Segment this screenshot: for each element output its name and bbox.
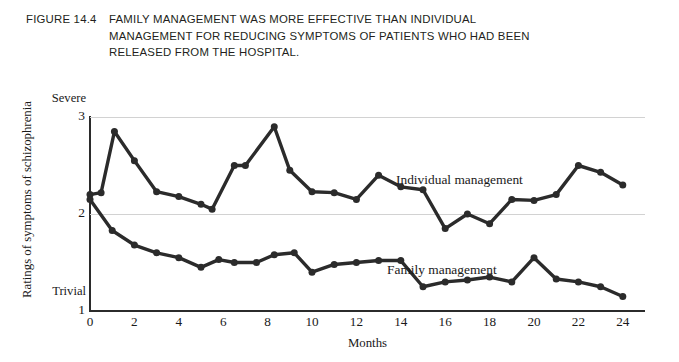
data-point xyxy=(253,259,260,266)
data-point xyxy=(215,256,222,263)
data-point xyxy=(353,259,360,266)
y-axis-tick-3: 3 xyxy=(45,108,85,124)
y-axis-tick-2: 2 xyxy=(45,205,85,221)
data-point xyxy=(198,264,205,271)
x-axis-tick-4: 4 xyxy=(164,314,194,330)
data-point xyxy=(331,261,338,268)
data-point xyxy=(375,257,382,264)
data-point xyxy=(575,278,582,285)
data-point xyxy=(271,123,278,130)
series-label-individual: Individual management xyxy=(396,172,523,188)
data-point xyxy=(131,157,138,164)
data-point xyxy=(375,172,382,179)
data-point xyxy=(109,227,116,234)
x-axis-tick-0: 0 xyxy=(75,314,105,330)
data-point xyxy=(353,196,360,203)
data-point xyxy=(198,201,205,208)
x-axis-tick-18: 18 xyxy=(475,314,505,330)
x-axis-tick-16: 16 xyxy=(430,314,460,330)
data-point xyxy=(111,128,118,135)
data-point xyxy=(309,188,316,195)
x-axis-tick-6: 6 xyxy=(208,314,238,330)
x-axis-tick-12: 12 xyxy=(341,314,371,330)
data-point xyxy=(231,259,238,266)
data-point xyxy=(619,293,626,300)
data-point xyxy=(442,225,449,232)
data-point xyxy=(508,278,515,285)
y-axis-anchor-trivial: Trivial xyxy=(20,284,86,299)
data-point xyxy=(131,242,138,249)
series-label-family: Family management xyxy=(387,262,497,278)
data-point xyxy=(153,249,160,256)
data-point xyxy=(531,254,538,261)
data-point xyxy=(271,251,278,258)
data-point xyxy=(442,278,449,285)
data-point xyxy=(486,220,493,227)
data-point xyxy=(175,254,182,261)
data-point xyxy=(553,275,560,282)
chart-container: Ratings of symptoms of schizophrenia 3 2… xyxy=(0,88,679,362)
x-axis-tick-20: 20 xyxy=(519,314,549,330)
data-point xyxy=(309,269,316,276)
x-axis-tick-14: 14 xyxy=(386,314,416,330)
data-point xyxy=(597,283,604,290)
x-axis-tick-2: 2 xyxy=(119,314,149,330)
x-axis-tick-8: 8 xyxy=(253,314,283,330)
data-point xyxy=(464,211,471,218)
figure-caption: FIGURE 14.4FAMILY MANAGEMENT WAS MORE EF… xyxy=(26,11,646,61)
data-point xyxy=(331,189,338,196)
series-line-individual xyxy=(90,127,623,229)
x-axis-tick-24: 24 xyxy=(608,314,638,330)
x-axis-tick-22: 22 xyxy=(563,314,593,330)
figure-number: FIGURE 14.4 xyxy=(26,11,109,28)
data-point xyxy=(291,249,298,256)
data-point xyxy=(209,206,216,213)
data-point xyxy=(508,196,515,203)
data-point xyxy=(87,196,94,203)
data-point xyxy=(553,191,560,198)
y-axis-anchor-severe: Severe xyxy=(24,91,86,106)
x-axis-title: Months xyxy=(90,336,645,351)
y-axis-title: Ratings of symptoms of schizophrenia xyxy=(20,85,35,315)
data-point xyxy=(286,167,293,174)
data-point xyxy=(619,181,626,188)
series-line-family xyxy=(90,199,623,296)
data-point xyxy=(420,283,427,290)
data-point xyxy=(175,193,182,200)
data-point xyxy=(242,162,249,169)
plot-area: Individual management Family management xyxy=(90,117,645,311)
data-point xyxy=(153,188,160,195)
series-lines xyxy=(90,117,645,311)
data-point xyxy=(231,162,238,169)
data-point xyxy=(98,189,105,196)
data-point xyxy=(575,162,582,169)
x-axis-tick-group: 024681012141618202224 xyxy=(90,314,645,334)
x-axis-tick-10: 10 xyxy=(297,314,327,330)
data-point xyxy=(531,197,538,204)
figure-caption-text: FAMILY MANAGEMENT WAS MORE EFFECTIVE THA… xyxy=(109,11,539,61)
data-point xyxy=(597,169,604,176)
